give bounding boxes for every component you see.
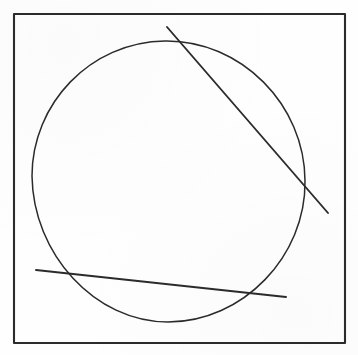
square-frame [14,14,345,343]
secant-line-lower [36,270,286,297]
inscribed-circle [32,41,305,322]
figure-canvas: Hand-drawn geometric figure A square fra… [0,0,358,355]
secant-line-diagonal [167,27,328,213]
geometry-drawing: Hand-drawn geometric figure A square fra… [0,0,358,355]
